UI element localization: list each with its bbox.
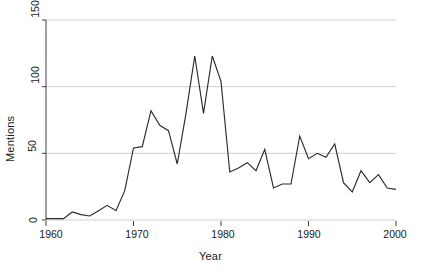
grid-lines — [46, 20, 396, 220]
data-line-mentions — [46, 56, 396, 219]
chart-figure: Mentions 0 50 100 150 1960 1970 1980 199… — [0, 0, 421, 274]
tick-marks — [42, 20, 396, 226]
plot-area — [0, 0, 421, 274]
